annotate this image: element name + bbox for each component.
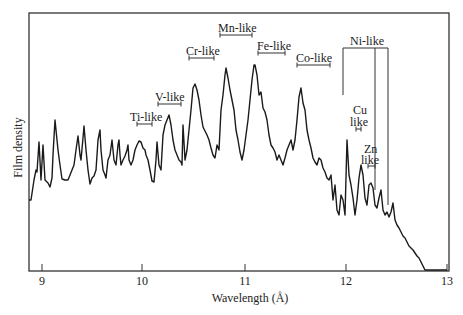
x-tick-label: 13 — [437, 274, 457, 289]
label-ni-like: Ni-like — [350, 35, 384, 47]
label-fe-like: Fe-like — [257, 40, 291, 52]
label-cr-like: Cr-like — [186, 45, 220, 57]
x-tick-label: 11 — [235, 274, 255, 289]
x-axis-label: Wavelength (Å) — [190, 291, 310, 306]
label-cu-like-2: like — [350, 116, 368, 128]
label-ti-like: Ti-like — [130, 111, 162, 123]
x-tick-label: 12 — [336, 274, 356, 289]
x-axis-ticks — [42, 264, 447, 271]
x-tick-label: 10 — [132, 274, 152, 289]
label-mn-like: Mn-like — [218, 22, 257, 34]
y-axis-label: Film density — [11, 108, 26, 188]
x-tick-label: 9 — [32, 274, 52, 289]
spectrum-chart — [0, 0, 463, 315]
spectrum-line — [29, 65, 447, 270]
label-v-like: V-like — [155, 91, 185, 103]
label-co-like: Co-like — [296, 52, 332, 64]
label-zn-like-2: like — [361, 154, 379, 166]
